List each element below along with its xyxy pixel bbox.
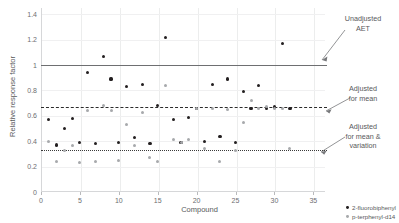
- x-gridline: [198, 8, 199, 191]
- legend-label: 2-fluorobiphenyl: [352, 203, 396, 212]
- y-tick-label: 0.6: [27, 112, 37, 119]
- unadjusted-aet-annotation: Unadjusted AET: [330, 14, 396, 33]
- legend-marker-icon: [346, 206, 349, 209]
- x-gridline: [314, 8, 315, 191]
- data-point: [218, 135, 221, 138]
- data-point: [211, 83, 214, 86]
- data-point: [110, 109, 113, 112]
- chart-root: Relative response factor Compound Unadju…: [0, 0, 399, 223]
- y-gridline: [42, 141, 325, 142]
- y-gridline: [42, 116, 325, 117]
- data-point: [102, 104, 105, 107]
- data-point: [63, 127, 66, 130]
- y-gridline: [42, 90, 325, 91]
- unadjusted-aet-annotation-line2: AET: [356, 24, 370, 33]
- x-tickmark: [41, 192, 42, 195]
- data-point: [226, 77, 229, 80]
- adjusted-mean-annotation-line1: Adjusted: [349, 84, 377, 93]
- y-gridline: [42, 40, 325, 41]
- data-point: [71, 144, 74, 147]
- data-point: [203, 140, 206, 143]
- data-point: [133, 144, 136, 147]
- legend-item-2-fluorobiphenyl: 2-fluorobiphenyl: [346, 203, 396, 212]
- y-tick-label: 0.4: [27, 138, 37, 145]
- data-point: [102, 55, 105, 58]
- x-tickmark: [80, 192, 81, 195]
- x-tickmark: [236, 192, 237, 195]
- x-gridline: [120, 8, 121, 191]
- adjusted-mean-variation-annotation: Adjusted for mean & variation: [330, 122, 396, 151]
- data-point: [109, 77, 112, 80]
- x-tick-label: 25: [221, 197, 251, 204]
- adjusted-mean-annotation-line2: for mean: [349, 94, 377, 103]
- reference-line-adjusted-for-mean-variation: [41, 150, 327, 151]
- chart-legend: 2-fluorobiphenyl p-terphenyl-d14: [346, 203, 396, 221]
- data-point: [288, 107, 291, 110]
- y-tick-label: 1.4: [27, 11, 37, 18]
- x-axis-title: Compound: [0, 205, 399, 214]
- x-tick-label: 35: [298, 197, 328, 204]
- y-tick-label: 0.8: [27, 87, 37, 94]
- x-tickmark: [274, 192, 275, 195]
- data-point: [94, 160, 97, 163]
- x-gridline: [159, 8, 160, 191]
- legend-marker-icon: [346, 215, 349, 218]
- x-gridline: [81, 8, 82, 191]
- unadjusted-aet-annotation-line1: Unadjusted: [345, 14, 381, 23]
- data-point: [141, 83, 144, 86]
- plot-area: [41, 8, 325, 192]
- data-point: [249, 107, 252, 110]
- x-tick-label: 15: [143, 197, 173, 204]
- y-tick-label: 1: [33, 62, 37, 69]
- x-tick-label: 10: [104, 197, 134, 204]
- y-tick-label: 0.2: [27, 163, 37, 170]
- reference-line-unadjusted-aet: [41, 65, 327, 66]
- data-point: [250, 99, 253, 102]
- legend-item-p-terphenyl-d14: p-terphenyl-d14: [346, 212, 396, 221]
- data-point: [195, 107, 198, 110]
- y-tick-label: 0: [33, 189, 37, 196]
- x-tickmark: [313, 192, 314, 195]
- data-point: [63, 149, 66, 152]
- data-point: [242, 121, 245, 124]
- data-point: [148, 142, 151, 145]
- x-tick-label: 20: [182, 197, 212, 204]
- adjusted-mean-variation-annotation-line1: Adjusted: [349, 122, 377, 131]
- x-tickmark: [158, 192, 159, 195]
- x-gridline: [237, 8, 238, 191]
- adjusted-mean-annotation: Adjusted for mean: [330, 84, 396, 103]
- x-gridline: [275, 8, 276, 191]
- x-tickmark: [119, 192, 120, 195]
- data-point: [273, 107, 276, 110]
- x-tick-label: 30: [259, 197, 289, 204]
- y-gridline: [42, 167, 325, 168]
- data-point: [133, 136, 136, 139]
- data-point: [281, 42, 284, 45]
- y-gridline: [42, 14, 325, 15]
- data-point: [234, 149, 237, 152]
- x-tick-label: 5: [65, 197, 95, 204]
- data-point: [55, 143, 58, 146]
- data-point: [180, 141, 183, 144]
- reference-line-adjusted-for-mean: [41, 107, 327, 108]
- y-axis-title: Relative response factor: [8, 37, 17, 157]
- data-point: [211, 107, 214, 110]
- data-point: [281, 107, 284, 110]
- data-point: [71, 117, 74, 120]
- legend-label: p-terphenyl-d14: [352, 212, 395, 221]
- x-tickmark: [197, 192, 198, 195]
- adjusted-mean-variation-annotation-line3: variation: [349, 141, 376, 150]
- data-point: [164, 84, 167, 87]
- x-tick-label: 0: [26, 197, 56, 204]
- data-point: [141, 111, 144, 114]
- y-tick-label: 1.2: [27, 36, 37, 43]
- data-point: [164, 36, 167, 39]
- adjusted-mean-variation-annotation-line2: for mean &: [345, 132, 380, 141]
